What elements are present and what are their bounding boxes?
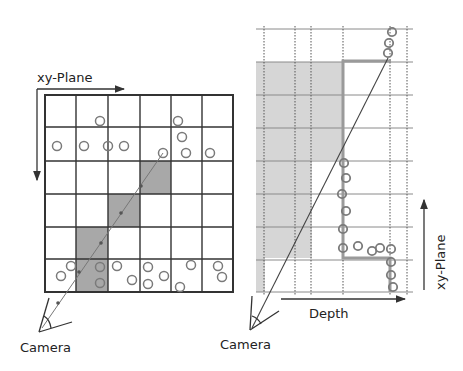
left-camera-ray xyxy=(42,153,163,328)
right-camera-icon xyxy=(250,296,279,330)
left-camera-icon xyxy=(39,298,72,332)
left-panel: xy-Plane xyxy=(20,70,233,355)
diagram-canvas: xy-Plane xyxy=(0,0,463,371)
right-axis-label: xy-Plane xyxy=(433,234,448,290)
left-camera-label: Camera xyxy=(20,340,71,355)
occluded-region xyxy=(256,62,343,292)
right-panel: Depth xy-Plane Camera xyxy=(220,26,448,352)
left-axes xyxy=(37,89,124,180)
right-camera-label: Camera xyxy=(220,337,271,352)
left-axis-label: xy-Plane xyxy=(37,70,93,85)
depth-axis-label: Depth xyxy=(309,306,349,321)
right-points xyxy=(338,28,397,291)
